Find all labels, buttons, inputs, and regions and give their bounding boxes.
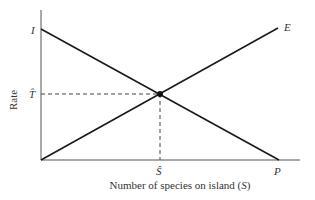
x-axis-label: Number of species on island (S)	[110, 179, 251, 192]
x-axis-label-prefix: Number of species on island (	[110, 179, 242, 192]
label-P: P	[273, 165, 281, 177]
equilibrium-point	[157, 91, 163, 97]
label-E: E	[283, 21, 291, 33]
label-S-hat: Ŝ	[156, 165, 162, 177]
x-axis-label-suffix: )	[247, 179, 251, 192]
label-I: I	[30, 24, 36, 36]
island-biogeography-diagram: I E P T̂ Ŝ Rate Number of species on isl…	[0, 0, 315, 200]
y-axis-label: Rate	[7, 90, 19, 110]
label-T-hat: T̂	[29, 88, 36, 100]
